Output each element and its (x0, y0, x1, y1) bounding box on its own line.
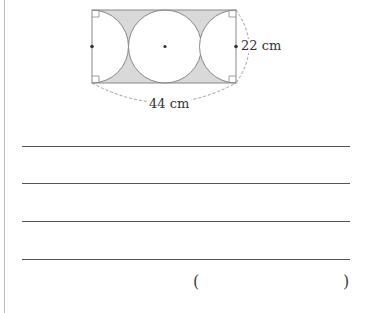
answer-close-paren: ) (343, 272, 349, 291)
answer-line-1[interactable] (22, 146, 350, 147)
width-label: 44 cm (147, 97, 191, 111)
geometry-figure: 22 cm 44 cm (0, 0, 373, 125)
answer-line-2[interactable] (22, 183, 350, 184)
answer-line-4[interactable] (22, 259, 350, 260)
answer-open-paren: ( (193, 272, 199, 291)
height-label: 22 cm (241, 39, 281, 53)
answer-line-3[interactable] (22, 221, 350, 222)
